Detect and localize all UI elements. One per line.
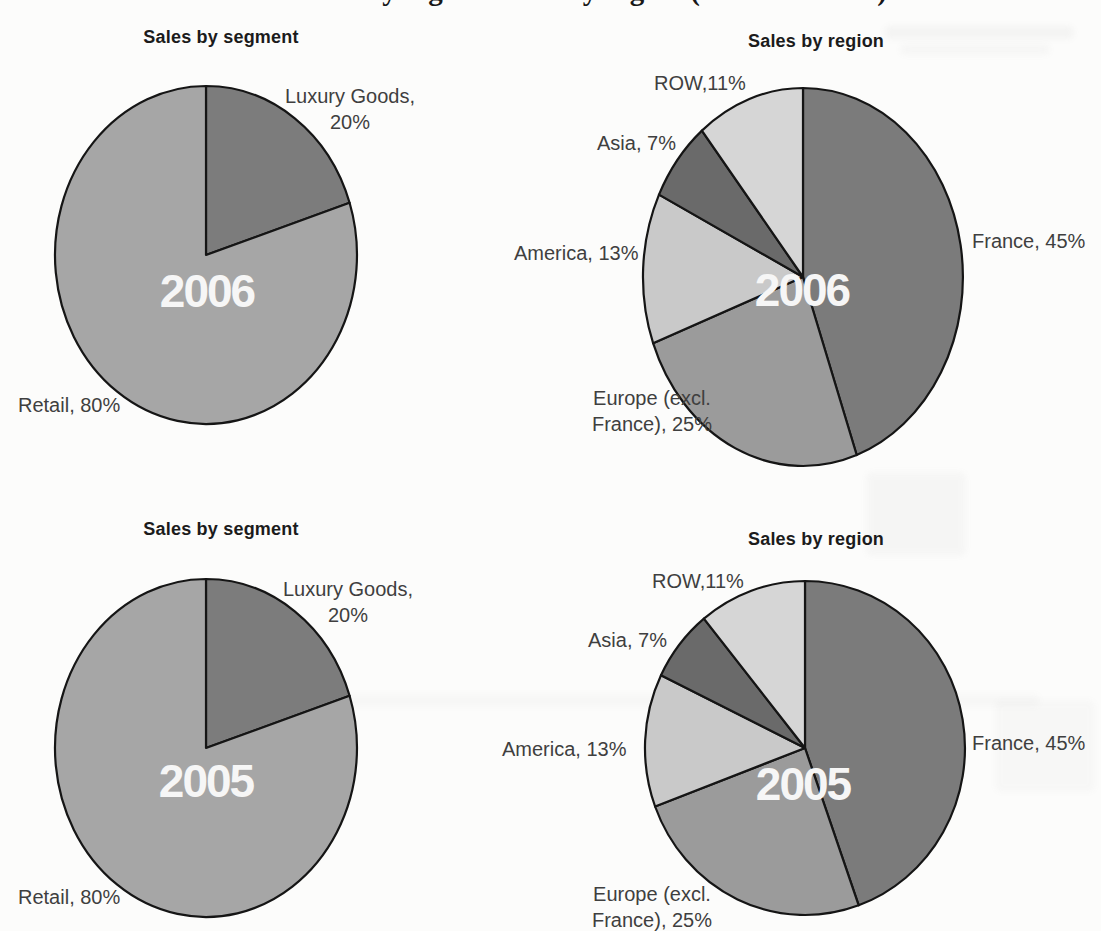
slice-label-luxury-goods: Luxury Goods, 20% — [268, 576, 428, 628]
year-center-label: 2005 — [718, 761, 888, 807]
slice-label-line: 20% — [268, 602, 428, 628]
slice-label-row: ROW,11% — [652, 568, 744, 594]
slice-label-europe: Europe (excl. France), 25% — [576, 881, 728, 931]
slice-label-asia: Asia, 7% — [597, 130, 676, 156]
year-center-label: 2005 — [121, 758, 291, 804]
chart-title: Sales by segment — [71, 27, 371, 48]
slice-label-france: France, 45% — [972, 730, 1085, 756]
pie-chart-region-2005 — [642, 578, 968, 918]
cropped-page-heading: Sales by segment and by region (2005 and… — [296, 0, 887, 7]
chart-title: Sales by region — [666, 31, 966, 52]
page-root: { "page": { "cropped_heading_text": "Sal… — [0, 0, 1101, 931]
slice-label-asia: Asia, 7% — [588, 627, 667, 653]
year-center-label: 2006 — [122, 268, 292, 314]
slice-label-row: ROW,11% — [654, 70, 746, 96]
slice-label-line: France), 25% — [576, 411, 728, 437]
slice-label-luxury-goods: Luxury Goods, 20% — [270, 83, 430, 135]
chart-title: Sales by segment — [71, 519, 371, 540]
slice-label-america: America, 13% — [502, 736, 627, 762]
slice-label-retail: Retail, 80% — [18, 884, 120, 910]
slice-label-retail: Retail, 80% — [18, 392, 120, 418]
slice-label-america: America, 13% — [514, 240, 639, 266]
chart-title: Sales by region — [666, 529, 966, 550]
slice-label-line: Europe (excl. — [576, 881, 728, 907]
slice-label-line: France), 25% — [576, 907, 728, 931]
slice-label-line: 20% — [270, 109, 430, 135]
slice-label-line: Luxury Goods, — [268, 576, 428, 602]
slice-label-europe: Europe (excl. France), 25% — [576, 385, 728, 437]
year-center-label: 2006 — [717, 267, 887, 313]
slice-label-line: Europe (excl. — [576, 385, 728, 411]
slice-label-line: Luxury Goods, — [270, 83, 430, 109]
slice-label-france: France, 45% — [972, 228, 1085, 254]
